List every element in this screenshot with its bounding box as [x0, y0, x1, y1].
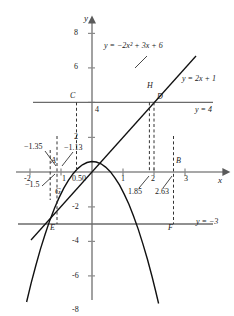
point-label-G: G: [55, 188, 61, 196]
annotation-0-50: 0.50: [72, 175, 86, 183]
point-label-D: D: [157, 93, 163, 101]
parabola-equation-label: y = −2x² + 3x + 6: [104, 42, 163, 50]
x-tick-label-3: 3: [184, 175, 188, 183]
y-axis-label: y: [84, 14, 88, 23]
point-label-E: E: [50, 224, 55, 232]
point-label-H: H: [147, 82, 153, 90]
y-tick-label-minus6: -6: [72, 272, 79, 280]
x-tick-label-2: 2: [151, 175, 155, 183]
y-tick-label-8: 8: [74, 29, 78, 37]
x-axis-label: x: [218, 176, 222, 185]
y-tick-label-4: 4: [95, 106, 99, 114]
annotation-minus-1-35: −1.35: [24, 143, 43, 151]
y-tick-label-2: 2: [74, 133, 78, 141]
point-label-B: B: [176, 157, 181, 165]
line-yminus3-label: y = −3: [196, 218, 218, 226]
line-y4-label: y = 4: [195, 106, 212, 114]
y-tick-label-minus8: -8: [72, 306, 79, 314]
y-tick-label-minus2: -2: [72, 203, 79, 211]
x-tick-label-1: 1: [121, 175, 125, 183]
annotation-minus-1-13: −1.13: [64, 144, 83, 152]
x-tick-label-minus1: 1: [62, 175, 66, 183]
point-label-C: C: [70, 92, 75, 100]
point-label-F: F: [168, 224, 173, 232]
annotation-2-63: 2.63: [155, 188, 169, 196]
line-equation-label: y = 2x + 1: [182, 75, 216, 83]
point-label-A: A: [51, 157, 56, 165]
y-tick-label-6: 6: [74, 63, 78, 71]
annotation-minus-1-5: −1.5: [25, 181, 40, 189]
line-y-equals-2x-plus-1: [31, 56, 196, 240]
graph-figure: y x 8 6 4 2 -2 -4 -6 -8 -2 1 1 2 3 y = −…: [0, 0, 234, 316]
dashed-guides: [50, 102, 173, 224]
annotation-1-85: 1.85: [128, 188, 142, 196]
y-tick-label-minus4: -4: [72, 237, 79, 245]
